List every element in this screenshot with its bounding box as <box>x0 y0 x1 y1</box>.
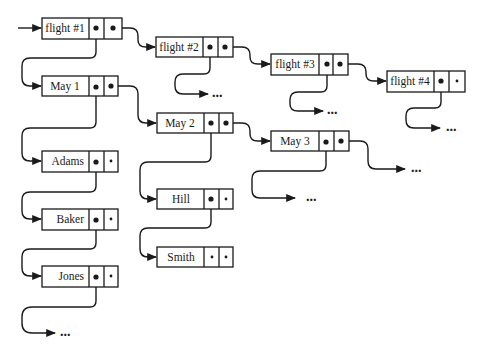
flight3-continuation-ellipsis: ... <box>327 102 338 117</box>
node-may-1: May 1 <box>42 76 118 96</box>
pointer-dot-icon <box>338 138 343 143</box>
node-passenger-adams: Adams <box>42 151 118 172</box>
node-passenger-baker: Baker <box>42 209 118 230</box>
node-label: Jones <box>58 270 84 282</box>
pointer-dot-icon <box>324 61 329 66</box>
pointer-dot-icon <box>93 274 98 279</box>
node-label: May 3 <box>280 135 310 148</box>
may2-down-arrow <box>140 123 211 199</box>
node-label: flight #4 <box>390 75 430 88</box>
flight4-continuation-ellipsis: ... <box>446 119 457 134</box>
null-pointer-icon <box>225 198 228 201</box>
node-passenger-jones: Jones <box>42 266 118 287</box>
pointer-dot-icon <box>222 44 227 49</box>
null-pointer-icon <box>110 160 113 163</box>
flight2-continuation-ellipsis: ... <box>212 85 223 100</box>
node-label: Hill <box>172 193 190 205</box>
node-label: May 2 <box>165 117 195 130</box>
node-label: flight #3 <box>275 58 315 71</box>
null-pointer-icon <box>110 275 113 278</box>
node-label: flight #2 <box>159 41 199 54</box>
flight-reservation-linked-list-diagram: ... ... ... ... ... ... flight #1 flight… <box>0 0 486 360</box>
null-pointer-icon <box>456 80 459 83</box>
may1-down-arrow <box>22 86 96 161</box>
may3-down-continuation-ellipsis: ... <box>306 189 317 204</box>
null-pointer-icon <box>211 256 214 259</box>
null-pointer-icon <box>225 256 228 259</box>
node-passenger-smith: Smith <box>157 247 233 267</box>
node-may-2: May 2 <box>157 113 233 133</box>
node-label: Smith <box>167 251 195 263</box>
pointer-dot-icon <box>323 139 328 144</box>
may3-next-arrow <box>341 141 405 169</box>
node-flight-3: flight #3 <box>271 54 348 75</box>
pointer-dot-icon <box>93 159 98 164</box>
node-label: May 1 <box>50 80 80 93</box>
node-label: flight #1 <box>45 22 85 35</box>
pointer-dot-icon <box>110 25 115 30</box>
jones-continuation-ellipsis: ... <box>60 324 71 339</box>
pointer-dot-icon <box>223 120 228 125</box>
node-passenger-hill: Hill <box>157 189 233 209</box>
node-flight-1: flight #1 <box>42 18 122 39</box>
pointer-dot-icon <box>108 83 113 88</box>
node-label: Baker <box>57 213 85 225</box>
node-label: Adams <box>51 155 84 167</box>
null-pointer-icon <box>110 218 113 221</box>
pointer-dot-icon <box>438 78 443 83</box>
pointer-dot-icon <box>93 217 98 222</box>
pointer-dot-icon <box>93 84 98 89</box>
may3-next-continuation-ellipsis: ... <box>411 160 422 175</box>
pointer-dot-icon <box>93 25 98 30</box>
node-flight-4: flight #4 <box>387 71 465 92</box>
node-flight-2: flight #2 <box>156 37 233 57</box>
node-may-3: May 3 <box>271 131 349 151</box>
pointer-dot-icon <box>207 44 212 49</box>
pointer-dot-icon <box>208 196 213 201</box>
pointer-dot-icon <box>208 120 213 125</box>
pointer-dot-icon <box>337 61 342 66</box>
